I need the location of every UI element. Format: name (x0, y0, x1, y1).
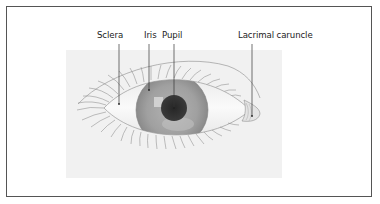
label-sclera: Sclera (97, 31, 123, 40)
label-iris: Iris (144, 31, 157, 40)
label-lacrimal-caruncle: Lacrimal caruncle (238, 31, 313, 40)
label-pupil: Pupil (162, 31, 182, 40)
eye-illustration (0, 0, 380, 204)
